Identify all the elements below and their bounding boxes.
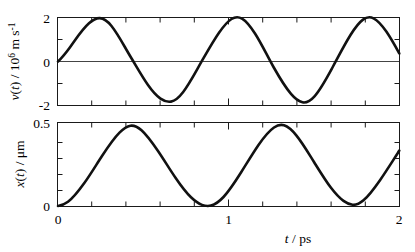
velocity-ytick-label-2: 2 xyxy=(43,11,50,26)
velocity-ytick-label-0: 0 xyxy=(43,55,50,70)
figure-container: 2 0 -2 v(t) / 106 m s-1 xyxy=(0,0,415,252)
x-axis-label: t / ps xyxy=(285,231,311,246)
xtick-label-2: 2 xyxy=(396,212,403,227)
velocity-panel xyxy=(58,17,400,105)
plot-svg: 2 0 -2 v(t) / 106 m s-1 xyxy=(0,0,415,252)
displacement-panel-frame xyxy=(58,123,400,207)
displacement-ytick-label-0: 0 xyxy=(43,199,50,214)
velocity-axis-label: v(t) / 106 m s-1 xyxy=(7,22,22,100)
displacement-panel xyxy=(58,123,400,207)
xtick-label-1: 1 xyxy=(225,212,232,227)
displacement-ytick-label-05: 0.5 xyxy=(33,116,50,131)
xtick-label-0: 0 xyxy=(55,212,62,227)
displacement-curve xyxy=(58,125,399,206)
displacement-y-ticks xyxy=(58,143,400,191)
svg-text:v(t) / 106 m s-1: v(t) / 106 m s-1 xyxy=(7,22,22,100)
svg-text:x(t) / μm: x(t) / μm xyxy=(12,140,27,188)
velocity-ytick-label-neg2: -2 xyxy=(39,98,50,113)
displacement-axis-label: x(t) / μm xyxy=(12,140,27,188)
velocity-curve xyxy=(58,17,399,102)
